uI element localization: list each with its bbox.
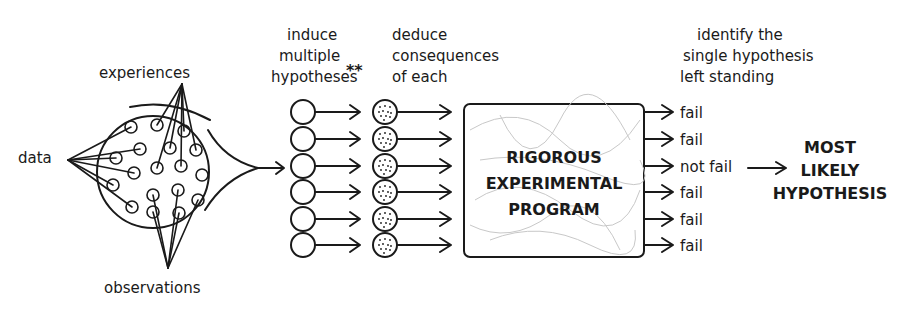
stipple-dot	[389, 213, 391, 215]
consequence-circle	[373, 154, 397, 178]
induce-arrow	[315, 105, 360, 119]
connection-lines	[68, 84, 198, 268]
hypothesis-circle	[291, 207, 315, 231]
stipple-dot	[387, 138, 389, 140]
stipple-dot	[382, 110, 384, 112]
outcome-label: fail	[680, 211, 703, 229]
stipple-dot	[378, 244, 380, 246]
deduce-arrow	[397, 159, 451, 173]
stipple-dot	[383, 199, 385, 201]
stipple-dot	[380, 222, 382, 224]
hypothesis-circle	[291, 100, 315, 124]
stipple-dot	[382, 217, 384, 219]
stipple-dot	[383, 119, 385, 121]
hypothesis-circle	[291, 154, 315, 178]
stipple-dot	[390, 219, 392, 221]
experimental-program-box: RIGOROUS EXPERIMENTAL PROGRAM	[464, 94, 645, 257]
identify-line-3: left standing	[680, 68, 774, 86]
induce-arrow	[315, 159, 360, 173]
stipple-dot	[380, 115, 382, 117]
stipple-dot	[380, 169, 382, 171]
asterisks: **	[346, 61, 363, 80]
experience-spoke	[157, 84, 182, 168]
stipple-dot	[384, 212, 386, 214]
stipple-dot	[389, 143, 391, 145]
induce-arrow	[315, 132, 360, 146]
deduce-arrow	[397, 105, 451, 119]
deduce-line-2: consequences	[392, 47, 499, 65]
stipple-dot	[387, 244, 389, 246]
observations-label: observations	[104, 279, 201, 297]
outcome-label: fail	[680, 237, 703, 255]
stipple-dot	[382, 164, 384, 166]
stipple-dot	[379, 133, 381, 135]
identify-line-2: single hypothesis	[683, 47, 814, 65]
deduce-line-1: deduce	[392, 26, 447, 44]
stipple-dot	[378, 218, 380, 220]
stipple-dot	[390, 139, 392, 141]
stipple-dot	[384, 132, 386, 134]
observation-spoke	[153, 212, 168, 268]
stipple-dot	[389, 106, 391, 108]
stipple-dot	[390, 192, 392, 194]
stipple-dot	[385, 248, 387, 250]
stipple-dot	[385, 169, 387, 171]
stipple-dot	[389, 223, 391, 225]
consequence-circle	[373, 127, 397, 151]
outcome-arrow	[644, 212, 673, 226]
deduce-arrow	[397, 185, 451, 199]
stipple-dot	[390, 245, 392, 247]
stipple-dot	[385, 142, 387, 144]
induce-arrow	[315, 238, 360, 252]
outcome-arrow	[644, 105, 673, 119]
stipple-dot	[383, 226, 385, 228]
deduce-arrow	[397, 238, 451, 252]
program-line-1: RIGOROUS	[506, 148, 601, 167]
induce-heading: induce multiple hypotheses **	[271, 26, 363, 86]
stipple-dot	[384, 185, 386, 187]
stipple-dot	[378, 111, 380, 113]
scientific-method-diagram: data experiences observations induce mul…	[0, 0, 906, 312]
identify-line-1: identify the	[697, 26, 783, 44]
stipple-dot	[378, 191, 380, 193]
stipple-dot	[384, 105, 386, 107]
stipple-dot	[389, 133, 391, 135]
stipple-dot	[390, 112, 392, 114]
consequence-circle	[373, 100, 397, 124]
outcome-label: not fail	[680, 158, 732, 176]
induce-line-3: hypotheses	[271, 68, 358, 86]
stipple-dot	[383, 146, 385, 148]
stipple-dot	[389, 116, 391, 118]
stipple-dot	[380, 195, 382, 197]
outcome-arrow	[644, 185, 673, 199]
stipple-dot	[387, 111, 389, 113]
outcome-arrow	[644, 159, 673, 173]
stipple-dot	[390, 166, 392, 168]
stipple-dot	[379, 239, 381, 241]
result-line-1: MOST	[804, 138, 856, 157]
experience-spoke	[181, 84, 182, 166]
consequence-circle	[373, 233, 397, 257]
deduce-arrow	[397, 212, 451, 226]
stipple-dot	[389, 186, 391, 188]
stipple-dot	[382, 137, 384, 139]
stipple-dot	[379, 213, 381, 215]
hypothesis-circle	[291, 233, 315, 257]
program-line-2: EXPERIMENTAL	[486, 174, 623, 193]
stipple-dot	[385, 195, 387, 197]
consequence-circle	[373, 207, 397, 231]
result-line-3: HYPOTHESIS	[773, 184, 888, 203]
stipple-dot	[389, 170, 391, 172]
stipple-dot	[380, 142, 382, 144]
outcome-label: fail	[680, 131, 703, 149]
stipple-dot	[380, 248, 382, 250]
stipple-dot	[387, 218, 389, 220]
stipple-dot	[378, 165, 380, 167]
induce-line-1: induce	[287, 26, 337, 44]
hypothesis-circle	[291, 127, 315, 151]
stipple-dot	[383, 252, 385, 254]
outcome-arrow	[644, 238, 673, 252]
result: MOST LIKELY HYPOTHESIS	[748, 138, 887, 203]
stipple-dot	[387, 191, 389, 193]
deduce-arrow	[397, 132, 451, 146]
